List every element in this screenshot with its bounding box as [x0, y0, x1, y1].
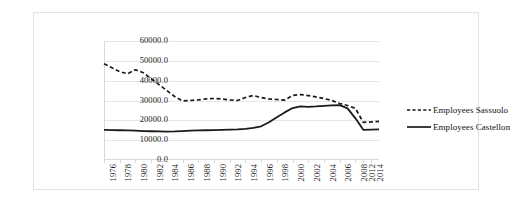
x-tick-mark	[167, 160, 168, 163]
legend-item-sassuolo: Employees Sassuolo	[406, 101, 510, 118]
x-tick-mark	[308, 160, 309, 163]
x-axis-labels: 1976197819801982198419861988199019921994…	[104, 160, 379, 206]
x-tick-label: 2002	[312, 164, 322, 181]
solid-line-icon	[406, 122, 432, 132]
x-tick-mark	[371, 160, 372, 163]
y-axis-labels: 60000.050000.040000.030000.020000.010000…	[104, 41, 168, 160]
legend-item-castellon: Employees Castellon	[406, 118, 510, 135]
x-tick-label: 1976	[108, 164, 118, 181]
x-tick-mark	[214, 160, 215, 163]
chart-frame: 60000.050000.040000.030000.020000.010000…	[33, 12, 479, 190]
x-tick-mark	[261, 160, 262, 163]
y-tick-label: 40000.0	[140, 75, 168, 85]
x-tick-mark	[104, 160, 105, 163]
legend-label-sassuolo: Employees Sassuolo	[433, 105, 508, 115]
x-tick-label: 1984	[170, 164, 180, 181]
x-tick-label: 1996	[265, 164, 275, 181]
x-tick-mark	[245, 160, 246, 163]
x-tick-mark	[355, 160, 356, 163]
x-tick-label: 1982	[155, 164, 165, 181]
x-tick-label: 1994	[249, 164, 259, 181]
x-tick-label: 1998	[280, 164, 290, 181]
x-tick-mark	[198, 160, 199, 163]
chart-legend: Employees Sassuolo Employees Castellon	[406, 101, 510, 135]
x-tick-label: 1986	[186, 164, 196, 181]
x-tick-mark	[293, 160, 294, 163]
x-tick-label: 1978	[123, 164, 133, 181]
x-tick-label: 1980	[139, 164, 149, 181]
y-tick-label: 60000.0	[140, 35, 168, 45]
x-tick-label: 2014	[375, 164, 385, 181]
x-tick-mark	[120, 160, 121, 163]
x-tick-mark	[277, 160, 278, 163]
x-tick-label: 2006	[343, 164, 353, 181]
x-tick-mark	[183, 160, 184, 163]
x-tick-label: 1992	[233, 164, 243, 181]
x-tick-mark	[363, 160, 364, 163]
x-tick-label: 1990	[218, 164, 228, 181]
x-tick-label: 2000	[296, 164, 306, 181]
x-tick-label: 1988	[202, 164, 212, 181]
x-tick-mark	[135, 160, 136, 163]
plot-area: 60000.050000.040000.030000.020000.010000…	[104, 41, 379, 160]
legend-label-castellon: Employees Castellon	[433, 122, 510, 132]
x-tick-mark	[340, 160, 341, 163]
y-tick-label: 30000.0	[140, 95, 168, 105]
y-tick-label: 50000.0	[140, 55, 168, 65]
y-tick-label: 10000.0	[140, 134, 168, 144]
x-tick-mark	[151, 160, 152, 163]
x-tick-mark	[324, 160, 325, 163]
x-tick-mark	[230, 160, 231, 163]
y-tick-label: 20000.0	[140, 114, 168, 124]
dashed-line-icon	[406, 105, 432, 115]
x-tick-label: 2004	[328, 164, 338, 181]
